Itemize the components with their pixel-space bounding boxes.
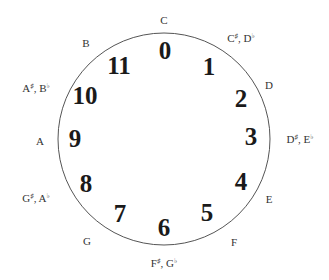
sharp-sign: ♯	[294, 133, 298, 141]
pitch-class-number: 3	[245, 124, 258, 149]
sharp-sign: ♯	[235, 32, 239, 40]
note-letter: E	[266, 193, 273, 205]
pitch-class-number: 5	[201, 200, 214, 225]
note-name-label: C	[160, 15, 167, 26]
note-letter: B	[82, 37, 89, 49]
note-letter: A	[22, 82, 30, 94]
pitch-class-number: 0	[159, 38, 172, 63]
note-name-label: D	[265, 80, 273, 91]
pitch-class-number: 4	[235, 169, 248, 194]
sharp-sign: ♯	[30, 82, 34, 90]
note-letter: A	[36, 135, 44, 147]
note-name-label: G♯, A♭	[22, 193, 50, 204]
flat-sign: ♭	[46, 82, 49, 90]
pitch-class-clock-diagram: 0C1C♯, D♭2D3D♯, E♭4E5F6F♯, G♭7G8G♯, A♭9A…	[0, 0, 329, 280]
note-letter-enharmonic: G	[166, 257, 174, 269]
note-letter: G	[83, 235, 91, 247]
pitch-class-number: 7	[114, 201, 127, 226]
pitch-class-number: 10	[73, 83, 98, 108]
pitch-class-number: 6	[158, 215, 171, 240]
note-letter: F	[231, 236, 237, 248]
pitch-class-number: 8	[80, 171, 93, 196]
flat-sign: ♭	[251, 32, 254, 40]
note-name-label: D♯, E♭	[287, 134, 314, 145]
note-name-label: A♯, B♭	[22, 83, 50, 94]
note-letter-enharmonic: E	[303, 133, 310, 145]
pitch-class-number: 1	[203, 54, 216, 79]
note-name-label: B	[82, 38, 89, 49]
note-name-label: E	[266, 194, 273, 205]
note-name-label: F	[231, 237, 237, 248]
flat-sign: ♭	[174, 257, 177, 265]
flat-sign: ♭	[47, 192, 50, 200]
note-letter: D	[287, 133, 295, 145]
pitch-class-number: 9	[69, 126, 82, 151]
pitch-class-number: 2	[235, 86, 248, 111]
sharp-sign: ♯	[157, 257, 161, 265]
flat-sign: ♭	[310, 133, 313, 141]
note-letter: G	[22, 192, 30, 204]
pitch-class-number: 11	[107, 53, 131, 78]
note-name-label: G	[83, 236, 91, 247]
note-letter: C	[160, 14, 167, 26]
note-letter: D	[265, 79, 273, 91]
sharp-sign: ♯	[30, 192, 34, 200]
note-name-label: C♯, D♭	[227, 33, 255, 44]
note-name-label: F♯, G♭	[151, 258, 177, 269]
note-name-label: A	[36, 136, 44, 147]
